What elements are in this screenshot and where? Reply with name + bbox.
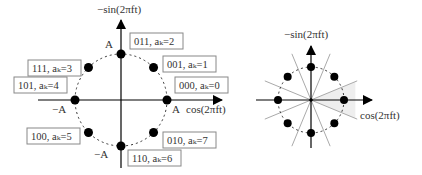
constellation-point-7 [149, 128, 158, 137]
symbol-label-box-0: 000, aₖ=0 [175, 77, 228, 93]
constellation-point-0 [163, 96, 172, 105]
symbol-label-box-7: 010, aₖ=7 [163, 132, 216, 148]
left-constellation: −sin(2πft) cos(2πft) A −A −A A 000, aₖ=0… [14, 3, 228, 168]
decision-point-2 [307, 63, 315, 71]
decision-point-1 [330, 73, 338, 81]
right-origin [309, 98, 313, 102]
decision-point-6 [307, 129, 315, 137]
symbol-label-text: 100, aₖ=5 [31, 131, 72, 142]
amp-label-right: A [172, 103, 180, 115]
amp-label-left: −A [52, 103, 66, 115]
left-x-axis-label: cos(2πft) [186, 103, 226, 116]
right-x-axis-label: cos(2πft) [360, 109, 400, 122]
symbol-label-box-1: 001, aₖ=1 [163, 56, 216, 72]
decision-point-5 [284, 119, 292, 127]
constellation-point-3 [84, 63, 93, 72]
symbol-label-box-2: 011, aₖ=2 [130, 33, 183, 49]
constellation-point-5 [84, 128, 93, 137]
decision-point-3 [284, 73, 292, 81]
constellation-figure: −sin(2πft) cos(2πft) A −A −A A 000, aₖ=0… [0, 0, 422, 175]
left-y-axis-label: −sin(2πft) [97, 3, 141, 16]
constellation-point-1 [149, 63, 158, 72]
constellation-point-4 [71, 96, 80, 105]
symbol-label-text: 001, aₖ=1 [167, 59, 208, 70]
constellation-point-2 [117, 50, 126, 59]
symbol-label-text: 000, aₖ=0 [179, 80, 220, 91]
decision-point-4 [274, 96, 282, 104]
decision-point-0 [340, 96, 348, 104]
symbol-label-text: 010, aₖ=7 [167, 135, 208, 146]
symbol-label-text: 011, aₖ=2 [134, 36, 174, 47]
symbol-label-text: 101, aₖ=4 [18, 80, 59, 91]
constellation-point-6 [117, 142, 126, 151]
right-y-axis-label: −sin(2πft) [284, 28, 328, 41]
symbol-label-box-3: 111, aₖ=3 [28, 60, 81, 76]
symbol-label-box-4: 101, aₖ=4 [14, 77, 67, 93]
decision-point-7 [330, 119, 338, 127]
amp-label-top: A [105, 38, 113, 50]
right-decision-regions: −sin(2πft) cos(2πft) [256, 28, 400, 148]
symbol-label-box-6: 110, aₖ=6 [128, 150, 181, 166]
symbol-label-text: 110, aₖ=6 [132, 153, 172, 164]
symbol-label-text: 111, aₖ=3 [32, 63, 72, 74]
amp-label-bottom: −A [94, 148, 108, 160]
symbol-label-box-5: 100, aₖ=5 [27, 128, 80, 144]
